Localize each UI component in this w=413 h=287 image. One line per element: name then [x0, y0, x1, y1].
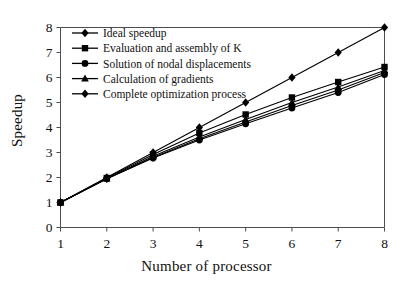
legend-label: Evaluation and assembly of K	[103, 42, 242, 55]
legend-label: Solution of nodal displacements	[103, 58, 251, 71]
y-tick-label: 1	[46, 195, 53, 210]
series-marker	[335, 48, 342, 56]
y-tick-labels: 012345678	[46, 20, 53, 235]
x-tick-label: 4	[196, 236, 203, 251]
legend-marker	[82, 60, 89, 67]
legend-label: Complete optimization process	[103, 88, 247, 101]
y-tick-label: 2	[46, 170, 53, 185]
y-tick-label: 5	[46, 95, 53, 110]
speedup-line-chart: 012345678 12345678 Ideal speedupEvaluati…	[0, 0, 413, 287]
x-tick-labels: 12345678	[57, 236, 388, 251]
legend-item-1: Ideal speedup	[72, 27, 167, 40]
y-axis-title: Speedup	[9, 76, 26, 166]
legend-marker	[81, 29, 88, 37]
legend-item-5: Complete optimization process	[72, 88, 247, 101]
legend-item-2: Evaluation and assembly of K	[72, 42, 242, 55]
x-tick-label: 3	[150, 236, 157, 251]
x-tick-label: 2	[103, 236, 110, 251]
y-tick-label: 3	[46, 145, 53, 160]
x-tick-label: 7	[335, 236, 342, 251]
series-marker	[288, 73, 295, 81]
legend-marker	[82, 45, 88, 51]
y-tick-label: 7	[46, 45, 53, 60]
legend-label: Calculation of gradients	[103, 73, 214, 86]
legend-marker	[81, 90, 88, 98]
y-tick-label: 4	[46, 120, 53, 135]
x-tick-label: 1	[57, 236, 64, 251]
series-marker	[381, 23, 388, 31]
x-tick-label: 5	[242, 236, 249, 251]
x-tick-label: 6	[289, 236, 296, 251]
y-tick-label: 6	[46, 70, 53, 85]
x-axis-title: Number of processor	[0, 258, 413, 275]
x-tick-label: 8	[381, 236, 388, 251]
legend-item-3: Solution of nodal displacements	[72, 58, 251, 71]
plot-area: 012345678 12345678 Ideal speedupEvaluati…	[0, 0, 413, 287]
legend-label: Ideal speedup	[103, 27, 167, 40]
y-tick-label: 8	[46, 20, 53, 35]
y-tick-label: 0	[46, 220, 53, 235]
legend-item-4: Calculation of gradients	[72, 73, 214, 86]
chart-legend: Ideal speedupEvaluation and assembly of …	[72, 27, 251, 101]
